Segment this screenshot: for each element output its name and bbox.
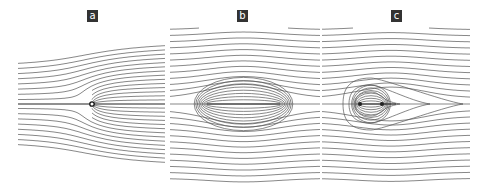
panel-label-c: c bbox=[391, 10, 402, 22]
streamline-figure bbox=[0, 0, 489, 193]
panel-label-b: b bbox=[237, 10, 248, 22]
panel-a bbox=[0, 0, 489, 193]
panel-label-a: a bbox=[87, 10, 98, 22]
